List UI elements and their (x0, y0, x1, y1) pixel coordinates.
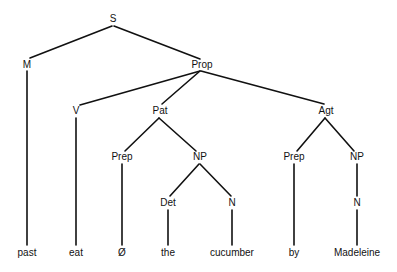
node-N2: N (353, 197, 360, 208)
node-Pat: Pat (152, 105, 167, 116)
node-S: S (110, 13, 117, 24)
edge-Agt-NP2 (325, 118, 354, 151)
node-past: past (18, 247, 37, 258)
edge-Agt-Prep2 (297, 118, 325, 151)
node-Prop: Prop (191, 59, 213, 70)
node-Madeleine: Madeleine (334, 247, 381, 258)
edge-Pat-NP1 (159, 118, 196, 151)
node-M: M (23, 59, 31, 70)
edge-Prop-V (80, 71, 200, 105)
node-N1: N (228, 197, 235, 208)
node-NP1: NP (193, 151, 207, 162)
node-Prep2: Prep (283, 151, 305, 162)
node-null: Ø (118, 247, 126, 258)
node-Agt: Agt (318, 105, 333, 116)
syntax-tree-diagram: SMPropVPatAgtPrepNPPrepNPDetNNpasteatØth… (0, 0, 397, 272)
node-the: the (161, 247, 175, 258)
node-Det: Det (160, 197, 176, 208)
node-eat: eat (69, 247, 83, 258)
edge-NP1-Det (170, 164, 199, 196)
node-V: V (73, 105, 80, 116)
edge-Pat-Prep1 (125, 118, 159, 151)
tree-nodes: SMPropVPatAgtPrepNPPrepNPDetNNpasteatØth… (18, 13, 381, 258)
node-by: by (289, 247, 300, 258)
edge-S-M (30, 26, 112, 58)
edge-NP1-N1 (200, 164, 231, 196)
node-Prep1: Prep (111, 151, 133, 162)
edge-S-Prop (114, 26, 200, 59)
edge-Prop-Agt (201, 71, 324, 104)
node-cucumber: cucumber (210, 247, 255, 258)
node-NP2: NP (350, 151, 364, 162)
